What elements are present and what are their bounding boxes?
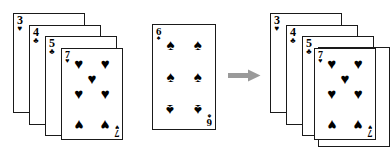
- card-suit-icon: ♥: [368, 123, 372, 129]
- card-pip-spades: ♠: [194, 37, 202, 52]
- card-pip-hearts: ♥: [101, 87, 110, 102]
- card-pip-hearts: ♥: [327, 87, 336, 102]
- card-pip-spades: ♠: [194, 70, 202, 85]
- corner-index-bottom-right: 7♥: [115, 123, 120, 137]
- card-pip-spades: ♠: [194, 102, 202, 117]
- card-pip-hearts: ♥: [101, 116, 110, 131]
- corner-index-bottom-right: 7♥: [368, 123, 373, 137]
- card-pip-hearts: ♥: [354, 57, 363, 72]
- card-6-of-spades[interactable]: 6♠♠♠♠♠♠♠6♠: [152, 24, 216, 130]
- right-arrow-icon: [228, 68, 261, 81]
- inserted-card-group: 6♠♠♠♠♠♠♠6♠: [145, 0, 225, 157]
- card-pip-spades: ♠: [166, 70, 174, 85]
- left-card-stack: 3♥♥♥♥4♣♣♣♣♣5♣♣♣♣♣♣7♥♥♥♥♥♥♥♥7♥: [0, 0, 130, 157]
- card-pip-hearts: ♥: [327, 116, 336, 131]
- card-7-of-hearts[interactable]: 7♥♥♥♥♥♥♥♥7♥: [314, 48, 376, 140]
- card-pip-hearts: ♥: [74, 57, 83, 72]
- pip-field: ♥♥♥♥♥♥♥: [62, 49, 122, 139]
- card-pip-hearts: ♥: [354, 116, 363, 131]
- pip-field: ♥♥♥♥♥♥♥: [315, 49, 375, 139]
- card-pip-hearts: ♥: [327, 57, 336, 72]
- card-pip-hearts: ♥: [74, 116, 83, 131]
- card-pip-hearts: ♥: [341, 71, 350, 86]
- pip-field: ♠♠♠♠♠♠: [153, 25, 215, 129]
- right-card-stack: 3♥♥♥♥4♣♣♣♣♣5♣♣♣♣♣♣6♣♣♣♣♣♣♣7♥♥♥♥♥♥♥♥7♥: [262, 0, 387, 157]
- card-pip-hearts: ♥: [101, 57, 110, 72]
- card-pip-hearts: ♥: [354, 87, 363, 102]
- card-suit-icon: ♠: [208, 112, 212, 118]
- card-pip-spades: ♠: [166, 37, 174, 52]
- card-7-of-hearts[interactable]: 7♥♥♥♥♥♥♥♥7♥: [61, 48, 123, 140]
- card-pip-hearts: ♥: [74, 87, 83, 102]
- card-suit-icon: ♥: [115, 123, 119, 129]
- card-pip-hearts: ♥: [88, 71, 97, 86]
- card-pip-spades: ♠: [166, 102, 174, 117]
- corner-index-bottom-right: 6♠: [207, 112, 212, 127]
